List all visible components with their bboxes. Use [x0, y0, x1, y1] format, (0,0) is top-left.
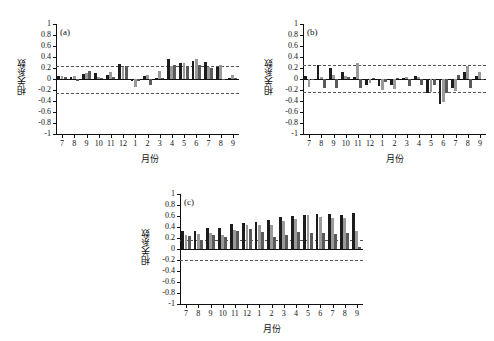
- panel-a-x-tickmark: [123, 135, 124, 138]
- panel-c-x-axis-label: 月份: [180, 322, 363, 335]
- panel-a-bar: [64, 77, 67, 79]
- panel-c-x-tick-label: 8: [343, 310, 347, 318]
- panel-a-y-tickmark: [53, 57, 56, 58]
- panel-c-y-tick-label: 0.6: [150, 212, 175, 220]
- panel-a-x-tick-label: 9: [85, 140, 89, 148]
- panel-b-plot-area: 10.80.60.40.20-0.2-0.4-0.6-0.8-178910111…: [303, 24, 486, 134]
- panel-c-y-tick-label: 0: [150, 245, 175, 253]
- panel-b-x-tick-label: 6: [441, 140, 445, 148]
- panel-b-y-axis-label: 相关系数: [261, 42, 273, 112]
- panel-c-y-tickmark: [177, 216, 180, 217]
- panel-c-x-tickmark: [357, 305, 358, 308]
- panel-a-y-tick-label: 0.8: [26, 31, 51, 39]
- panel-a-y-tickmark: [53, 24, 56, 25]
- panel-c-y-tickmark: [177, 227, 180, 228]
- panel-c-x-tickmark: [308, 305, 309, 308]
- panel-b-y-tickmark: [300, 112, 303, 113]
- panel-a-y-tick-label: -0.6: [26, 108, 51, 116]
- panel-b-bar: [466, 66, 469, 79]
- panel-b-x-tick-label: 9: [478, 140, 482, 148]
- panel-a-x-tick-label: 7: [60, 140, 64, 148]
- panel-a-x-tick-label: 4: [170, 140, 174, 148]
- panel-a-significance-line: [56, 93, 239, 94]
- panel-c-bar: [273, 237, 276, 249]
- panel-b-x-tickmark: [309, 135, 310, 138]
- panel-b-x-tick-label: 8: [466, 140, 470, 148]
- panel-a-x-tickmark: [62, 135, 63, 138]
- panel-a-x-tick-label: 3: [158, 140, 162, 148]
- panel-c-x-tick-label: 3: [282, 310, 286, 318]
- panel-c-bar: [212, 235, 215, 249]
- panel-a-bar: [149, 79, 152, 85]
- chart-panel-a: 相关系数 (a) 月份 10.80.60.40.20-0.2-0.4-0.6-0…: [0, 6, 247, 170]
- panel-c-x-tick-label: 4: [294, 310, 298, 318]
- panel-a-x-tick-label: 11: [107, 140, 115, 148]
- panel-b-x-tickmark: [431, 135, 432, 138]
- panel-b-y-tickmark: [300, 123, 303, 124]
- panel-a-x-tickmark: [209, 135, 210, 138]
- panel-b-x-tickmark: [419, 135, 420, 138]
- panel-b-y-tick-label: 0.6: [273, 42, 298, 50]
- panel-c-x-tick-label: 8: [196, 310, 200, 318]
- panel-b-x-tick-label: 5: [429, 140, 433, 148]
- panel-c-bar: [322, 233, 325, 249]
- panel-b-y-tick-label: 0.4: [273, 53, 298, 61]
- panel-c-y-tickmark: [177, 282, 180, 283]
- panel-a-x-tick-label: 7: [207, 140, 211, 148]
- panel-b-x-tickmark: [370, 135, 371, 138]
- panel-a-bar: [222, 79, 225, 80]
- panel-b-y-tick-label: -0.8: [273, 119, 298, 127]
- panel-a-bar: [234, 78, 237, 79]
- panel-c-y-tick-label: -0.4: [150, 267, 175, 275]
- panel-a-bar: [125, 66, 128, 79]
- panel-a-significance-line: [56, 66, 239, 67]
- panel-c-y-tick-label: 0.2: [150, 234, 175, 242]
- panel-b-bar: [478, 72, 481, 79]
- panel-a-bar: [210, 68, 213, 79]
- panel-b-bar: [384, 79, 387, 82]
- panel-b-x-tick-label: 3: [405, 140, 409, 148]
- panel-b-x-tickmark: [468, 135, 469, 138]
- panel-a-x-axis-label: 月份: [60, 152, 240, 165]
- panel-a-y-tickmark: [53, 134, 56, 135]
- panel-c-bar: [346, 233, 349, 249]
- panel-b-x-tick-label: 12: [366, 140, 374, 148]
- panel-c-bar: [358, 247, 361, 249]
- panel-c-x-tickmark: [211, 305, 212, 308]
- panel-b-bar: [420, 79, 423, 85]
- panel-c-x-tickmark: [272, 305, 273, 308]
- panel-c-x-tickmark: [247, 305, 248, 308]
- panel-b-x-tick-label: 4: [417, 140, 421, 148]
- panel-b-x-axis-label: 月份: [303, 152, 486, 165]
- panel-c-bar: [297, 232, 300, 249]
- panel-c-x-tick-label: 11: [231, 310, 239, 318]
- panel-c-x-tick-label: 10: [219, 310, 227, 318]
- panel-c-bar: [310, 233, 313, 249]
- panel-a-x-tick-label: 8: [219, 140, 223, 148]
- panel-b-x-tickmark: [407, 135, 408, 138]
- panel-b-x-tick-label: 8: [319, 140, 323, 148]
- panel-c-significance-line: [180, 260, 363, 261]
- panel-b-x-tick-label: 11: [354, 140, 362, 148]
- panel-a-y-tick-label: 0: [26, 75, 51, 83]
- panel-c-y-tick-label: 1: [150, 190, 175, 198]
- panel-a-y-tick-label: -1: [26, 130, 51, 138]
- panel-c-bar: [224, 237, 227, 249]
- panel-a-y-tick-label: 0.4: [26, 53, 51, 61]
- panel-a-bar: [76, 79, 79, 81]
- panel-b-y-tickmark: [300, 57, 303, 58]
- panel-b-bar: [372, 78, 375, 79]
- panel-c-plot-area: 10.80.60.40.20-0.2-0.4-0.6-0.8-178910111…: [180, 194, 363, 304]
- panel-c-x-tick-label: 1: [257, 310, 261, 318]
- panel-b-y-tick-label: 1: [273, 20, 298, 28]
- panel-a-y-tick-label: 0.2: [26, 64, 51, 72]
- panel-a-x-tickmark: [221, 135, 222, 138]
- panel-c-y-tickmark: [177, 304, 180, 305]
- panel-c-zero-line: [180, 249, 363, 250]
- panel-a-zero-line: [56, 79, 239, 80]
- panel-c-x-tickmark: [320, 305, 321, 308]
- panel-c-x-tickmark: [186, 305, 187, 308]
- panel-b-x-tickmark: [321, 135, 322, 138]
- panel-b-x-tickmark: [382, 135, 383, 138]
- panel-b-bar: [335, 79, 338, 88]
